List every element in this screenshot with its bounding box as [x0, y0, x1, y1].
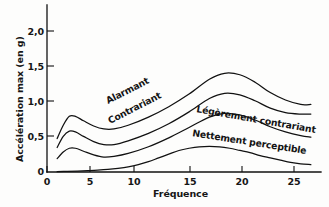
y-axis-title: Accélération max (en g): [14, 36, 25, 162]
x-tick-label-10: 10: [124, 176, 144, 187]
x-tick-label-25: 25: [284, 176, 304, 187]
x-axis-title: Fréquence: [16, 188, 329, 199]
svg-text:Nettement perceptible: Nettement perceptible: [192, 127, 307, 156]
x-tick-label-5: 5: [80, 176, 100, 187]
chart-container: Alarmant Contrariant Légèrement contrari…: [0, 0, 329, 207]
curve-alarmant: [57, 73, 311, 139]
x-tick-label-0: 0: [37, 176, 57, 187]
x-tick-label-15: 15: [180, 176, 200, 187]
curve-label-nettement-perceptible: Nettement perceptible: [192, 127, 307, 156]
x-tick-label-20: 20: [232, 176, 252, 187]
